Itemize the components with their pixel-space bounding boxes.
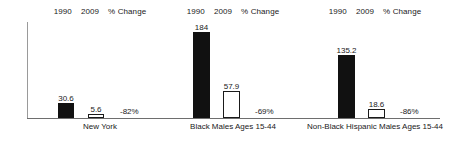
- bar-value-2009-non-black-hispanic-males: 18.6: [369, 100, 385, 109]
- percent-change-non-black-hispanic-males: -86%: [400, 107, 419, 116]
- bar-value-2009-new-york: 5.6: [90, 105, 101, 114]
- percent-change-black-males: -69%: [255, 107, 274, 116]
- category-label-new-york: New York: [30, 122, 170, 131]
- bar-2009-black-males: 57.9: [223, 91, 240, 118]
- bar-1990-new-york: 30.6: [58, 103, 74, 118]
- category-label-black-males: Black Males Ages 15-44: [163, 122, 303, 131]
- category-label-non-black-hispanic-males: Non-Black Hispanic Males Ages 15-44: [300, 122, 450, 131]
- bar-2009-non-black-hispanic-males: 18.6: [368, 109, 385, 118]
- bar-value-1990-black-males: 184: [195, 23, 208, 32]
- bar-2009-new-york: 5.6: [88, 114, 104, 118]
- bar-value-1990-new-york: 30.6: [58, 94, 74, 103]
- bars-non-black-hispanic-males: 135.2 18.6 -86%: [300, 0, 450, 118]
- chart-group-new-york: 1990 2009 % Change 30.6 5.6 -82% New Yor…: [30, 0, 170, 146]
- bars-black-males: 184 57.9 -69%: [163, 0, 303, 118]
- bar-value-1990-non-black-hispanic-males: 135.2: [336, 46, 356, 55]
- y-axis-line: [27, 22, 28, 118]
- percent-change-new-york: -82%: [120, 107, 139, 116]
- grouped-bar-chart: 1990 2009 % Change 30.6 5.6 -82% New Yor…: [0, 0, 454, 146]
- chart-group-black-males: 1990 2009 % Change 184 57.9 -69% Black M…: [163, 0, 303, 146]
- bar-1990-non-black-hispanic-males: 135.2: [338, 55, 355, 118]
- bars-new-york: 30.6 5.6 -82%: [30, 0, 170, 118]
- bar-1990-black-males: 184: [193, 32, 210, 118]
- bar-value-2009-black-males: 57.9: [224, 82, 240, 91]
- chart-group-non-black-hispanic-males: 1990 2009 % Change 135.2 18.6 -86% Non-B…: [300, 0, 450, 146]
